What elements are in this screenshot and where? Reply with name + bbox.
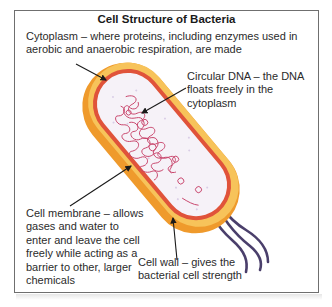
circular-dna-label: Circular DNA – the DNA floats freely in …	[187, 70, 317, 110]
cell-membrane-label: Cell membrane – allows gases and water t…	[26, 207, 146, 287]
membrane-arrow	[70, 166, 131, 206]
cytoplasm-label: Cytoplasm – where proteins, including en…	[26, 30, 316, 57]
cell-wall-label: Cell wall – gives the bacterial cell str…	[138, 256, 278, 283]
